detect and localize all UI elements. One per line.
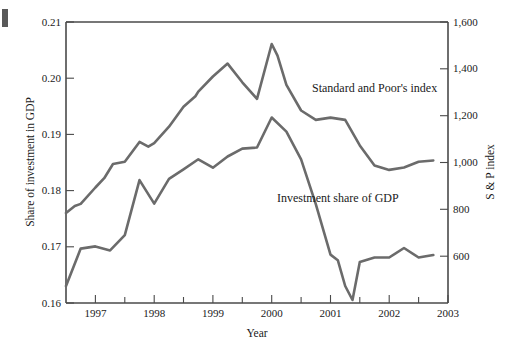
y2-tick-label: 1,200 [453, 109, 478, 121]
series-label-investment-share: Investment share of GDP [277, 191, 399, 205]
x-tick-label: 1997 [84, 307, 107, 319]
corner-mark [2, 9, 8, 27]
chart-figure: 0.16 0.17 0.18 0.19 0.20 0.21 600 800 1,… [0, 0, 516, 358]
y2-tick-label: 1,600 [453, 16, 478, 28]
x-tick-label: 1999 [202, 307, 225, 319]
x-axis-ticks [95, 295, 448, 303]
y-tick-label: 0.19 [42, 128, 62, 140]
y-axis-title: Share of investment in GDP [24, 97, 36, 227]
y2-tick-label: 1,400 [453, 62, 478, 74]
left-axis-tick-labels: 0.16 0.17 0.18 0.19 0.20 0.21 [42, 16, 62, 309]
right-axis-tick-labels: 600 800 1,000 1,200 1,400 1,600 [453, 16, 478, 262]
y2-tick-label: 800 [453, 203, 470, 215]
series-line-standard-and-poors [66, 44, 433, 213]
y-tick-label: 0.17 [42, 240, 62, 252]
y2-axis-title: S & P index [484, 144, 496, 200]
x-tick-label: 1998 [143, 307, 166, 319]
x-tick-label: 2003 [437, 307, 460, 319]
y2-tick-label: 600 [453, 250, 470, 262]
x-tick-label: 2001 [320, 307, 342, 319]
chart-svg: 0.16 0.17 0.18 0.19 0.20 0.21 600 800 1,… [0, 0, 516, 358]
y-tick-label: 0.16 [42, 297, 62, 309]
y2-tick-label: 1,000 [453, 156, 478, 168]
left-axis-ticks [66, 22, 74, 303]
y-tick-label: 0.20 [42, 72, 62, 84]
y-tick-label: 0.18 [42, 184, 62, 196]
x-tick-label: 2002 [378, 307, 400, 319]
x-axis-title: Year [246, 327, 267, 339]
x-axis-tick-labels: 1997 1998 1999 2000 2001 2002 2003 [84, 307, 459, 319]
right-axis-ticks [440, 22, 448, 256]
x-tick-label: 2000 [261, 307, 284, 319]
series-label-standard-and-poors: Standard and Poor's index [312, 81, 437, 95]
series-line-investment-share [66, 118, 433, 301]
y-tick-label: 0.21 [42, 16, 61, 28]
